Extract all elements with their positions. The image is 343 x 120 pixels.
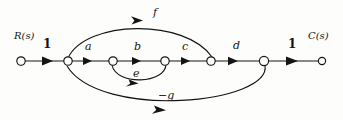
branch-gain-input: 1 xyxy=(43,38,51,50)
branch-gain-f: f xyxy=(153,7,157,18)
node-3 xyxy=(161,57,169,65)
branch-gain-b: b xyxy=(134,41,141,52)
node-4 xyxy=(207,57,215,65)
branch-gain-g: −g xyxy=(158,90,174,101)
signal-flow-graph-figure: R(s) 1 a b c d e f −g 1 C(s) xyxy=(0,0,343,120)
arrowhead-d xyxy=(228,57,238,65)
branch-gain-d: d xyxy=(233,40,240,51)
branch-gain-output: 1 xyxy=(288,38,296,50)
branch-gain-c: c xyxy=(182,41,188,52)
signal-flow-graph-canvas xyxy=(0,0,343,120)
branch-gain-a: a xyxy=(85,41,92,52)
output-signal-label: C(s) xyxy=(308,31,329,41)
arrowhead-output xyxy=(286,56,298,65)
input-signal-label: R(s) xyxy=(14,31,34,41)
node-output xyxy=(318,57,325,64)
arrowhead-input xyxy=(42,57,53,66)
branch-gain-e: e xyxy=(133,68,140,79)
arrowhead-c xyxy=(181,57,190,65)
arrowhead-a xyxy=(83,57,92,65)
node-input xyxy=(17,57,25,65)
arrowhead-f xyxy=(131,16,143,24)
arrowhead-g xyxy=(152,106,166,114)
arrowhead-b xyxy=(132,57,141,65)
node-2 xyxy=(109,57,117,65)
node-5 xyxy=(259,56,268,65)
node-1 xyxy=(64,57,72,65)
